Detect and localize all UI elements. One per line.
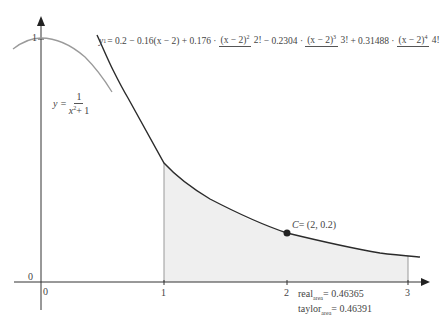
- eq-term2: + 0.31488 ·: [350, 36, 394, 46]
- eq-fraction-1: (x − 2)2 2!: [219, 34, 262, 47]
- point-c-name: C: [292, 219, 299, 230]
- function-denominator: x2+ 1: [69, 104, 90, 116]
- chart-canvas: [0, 0, 446, 329]
- x-axis-arrow-icon: [421, 278, 430, 286]
- function-fraction: 1 x2+ 1: [69, 92, 90, 116]
- eq-term1: − 0.2304 ·: [264, 36, 303, 46]
- x-tick-label-3: 3: [405, 288, 410, 298]
- y-axis-arrow-icon: [37, 16, 45, 26]
- x-tick-label-2: 2: [284, 288, 289, 298]
- shaded-area: [164, 163, 408, 282]
- taylor-equation: y1 = 0.2 − 0.16(x − 2) + 0.176 · (x − 2)…: [99, 34, 442, 47]
- function-label: y = 1 x2+ 1: [53, 92, 91, 116]
- x-tick-label-0: 0: [43, 287, 48, 297]
- function-label-lhs: y =: [53, 99, 67, 109]
- y-tick-label-1: 1: [32, 33, 37, 43]
- function-curve: [13, 38, 112, 92]
- eq-term0: = 0.2 − 0.16(x − 2) + 0.176 ·: [107, 36, 216, 46]
- point-c-coords: = (2, 0.2): [299, 219, 336, 230]
- y-tick-label-0: 0: [28, 272, 33, 282]
- x-tick-label-1: 1: [161, 288, 166, 298]
- function-numerator: 1: [74, 92, 83, 104]
- eq-lhs-sub: 1: [103, 38, 106, 44]
- taylor-area-label: taylorarea= 0.46391: [298, 304, 372, 316]
- point-c[interactable]: [284, 230, 291, 237]
- eq-fraction-2: (x − 2)3 3!: [305, 34, 348, 47]
- real-area-label: realarea= 0.46365: [298, 289, 364, 301]
- eq-fraction-3: (x − 2)4 4!: [397, 34, 440, 47]
- point-c-label: C= (2, 0.2): [292, 220, 336, 230]
